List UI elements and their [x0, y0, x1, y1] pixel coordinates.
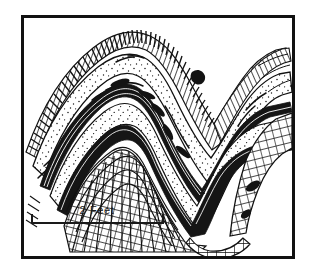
figure-container: 2 Feet: [0, 0, 309, 269]
geologic-cross-section-figure: 2 Feet: [0, 0, 309, 269]
scale-bar-label: 2 Feet: [80, 204, 115, 216]
